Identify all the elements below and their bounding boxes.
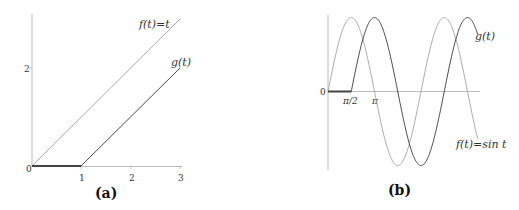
caption-a: (a) [95,185,117,201]
x-tick-half-pi: π/2 [342,96,358,106]
x-tick-0: 0 [320,87,326,97]
x-tick-0: 0 [26,164,32,174]
g-label: g(t) [171,56,191,69]
g-line [32,68,180,166]
x-tick-3: 3 [178,173,184,183]
f-label: f(t)=t [138,18,170,31]
y-tick-2: 2 [24,64,30,74]
x-tick-pi: π [371,96,379,106]
figure: 0 1 2 3 2 f(t)=t g(t) (a) 0 π/2 π g(t) f… [0,0,519,210]
f-label: f(t)=sin t [455,138,507,151]
f-line [32,19,180,166]
caption-b: (b) [388,182,411,198]
panel-a: 0 1 2 3 2 f(t)=t g(t) (a) [24,14,191,201]
x-tick-2: 2 [129,173,135,183]
x-tick-1: 1 [79,173,85,183]
g-label: g(t) [475,30,495,43]
panel-b: 0 π/2 π g(t) f(t)=sin t (b) [320,15,507,198]
